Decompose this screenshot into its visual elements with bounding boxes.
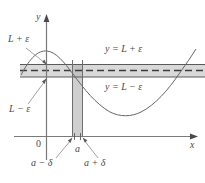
origin-label: 0	[36, 139, 41, 149]
a-plus-delta-leader	[84, 140, 98, 158]
figure-canvas	[0, 0, 205, 183]
y-axis-arrow	[44, 14, 50, 22]
upper-bound-label: L + ε	[8, 34, 29, 44]
upper-bound-leader	[26, 48, 45, 63]
limit-definition-figure: y x 0 L + ε L − ε y = L + ε y = L − ε a …	[0, 0, 205, 183]
lower-bound-leader-arrow	[42, 79, 47, 85]
a-minus-delta-leader	[56, 140, 71, 158]
a-plus-delta-label: a + δ	[84, 158, 105, 168]
a-plus-delta-arrow	[83, 138, 88, 143]
lower-line-equation-label: y = L − ε	[105, 82, 142, 92]
a-minus-delta-label: a − δ	[31, 158, 52, 168]
point-a-label: a	[75, 144, 80, 154]
lower-bound-label: L − ε	[9, 104, 30, 114]
a-minus-delta-arrow	[68, 138, 73, 144]
lower-bound-leader	[28, 81, 45, 104]
y-axis-label: y	[36, 12, 40, 22]
x-axis-label: x	[190, 140, 194, 150]
upper-line-equation-label: y = L + ε	[105, 44, 142, 54]
